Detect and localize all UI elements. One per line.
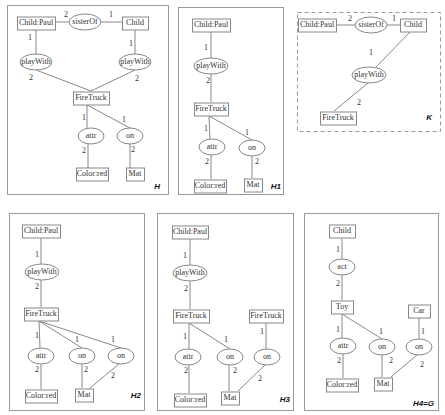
edge-arity-label: 2 (233, 366, 237, 375)
edge-arity-label: 2 (205, 157, 209, 166)
relation-node: attr (28, 348, 54, 364)
concept-label: Child (333, 226, 351, 235)
relation-label: on (248, 143, 256, 152)
edge-arity-label: 1 (122, 115, 126, 124)
concept-node: Child (330, 225, 356, 238)
concept-label: FireTruck (250, 311, 282, 320)
panel-title: H1 (271, 182, 282, 191)
concept-label: FireTruck (195, 104, 227, 113)
concept-label: Mat (78, 390, 92, 399)
concept-label: Child:Paul (19, 18, 54, 27)
edge-arity-label: 1 (204, 43, 208, 52)
relation-node: on (217, 349, 243, 365)
edge-arity-label: 1 (109, 10, 113, 19)
edge-arity-label: 2 (389, 356, 393, 365)
concept-label: Toy (336, 302, 348, 311)
concept-node: FireTruck (250, 310, 284, 323)
concept-node: Child:Paul (18, 17, 56, 30)
graph-edge (342, 314, 382, 339)
edge-arity-label: 2 (357, 98, 361, 107)
edge-arity-label: 2 (35, 282, 39, 291)
concept-label: Child (404, 20, 422, 29)
edge-arity-label: 2 (84, 365, 88, 374)
edge-arity-label: 2 (135, 74, 139, 83)
panel-title: K (426, 113, 433, 122)
relation-label: playWith (175, 268, 204, 277)
relation-label: on (78, 351, 86, 360)
concept-node: Mat (127, 168, 145, 181)
relation-node: on (239, 140, 265, 156)
panel-h2: 12111222Child:PaulFireTruckColor:redMatp… (10, 214, 145, 411)
concept-node: FireTruck (74, 92, 110, 105)
edge-arity-label: 1 (35, 331, 39, 340)
concept-label: Color:red (327, 380, 358, 389)
relation-label: attr (36, 351, 47, 360)
concept-node: FireTruck (195, 103, 229, 116)
graph-edge (36, 70, 91, 91)
concept-node: Child:Paul (193, 19, 231, 32)
graph-edge (376, 32, 410, 67)
relation-node: playWith (20, 54, 52, 70)
edge-arity-label: 1 (28, 33, 32, 42)
edge-arity-label: 1 (111, 335, 115, 344)
edge-arity-label: 1 (421, 327, 425, 336)
relation-node: on (406, 339, 432, 355)
relation-node: sisterOf (355, 17, 387, 33)
edge-arity-label: 2 (131, 145, 135, 154)
panel-border (179, 8, 284, 195)
relation-label: on (226, 352, 234, 361)
relation-label: on (126, 131, 134, 140)
panel-h: 2111221122Child:PaulChildFireTruckColor:… (8, 6, 169, 195)
edge-arity-label: 1 (75, 335, 79, 344)
relation-node: attr (330, 338, 356, 354)
panel-title: H2 (131, 391, 142, 400)
relation-node: playWith (173, 265, 207, 281)
relation-node: playWith (25, 264, 59, 280)
relation-label: act (337, 262, 347, 271)
edge-arity-label: 1 (336, 245, 340, 254)
concept-node: Child:Paul (299, 19, 337, 32)
concept-node: Color:red (195, 180, 227, 193)
edge-arity-label: 2 (29, 73, 33, 82)
edge-arity-label: 1 (224, 335, 228, 344)
relation-label: playWith (27, 267, 56, 276)
relation-label: attr (207, 142, 218, 151)
edge-arity-label: 1 (369, 48, 373, 57)
concept-label: Child:Paul (173, 227, 208, 236)
graph-edge (391, 355, 417, 377)
concept-node: Color:red (77, 168, 109, 181)
concept-label: Color:red (77, 169, 108, 178)
concept-node: Color:red (175, 394, 207, 407)
panel-title: H3 (280, 395, 291, 404)
graph-edge (91, 70, 135, 91)
edge-arity-label: 2 (348, 14, 352, 23)
concept-label: Child:Paul (194, 20, 229, 29)
graph-edge (39, 321, 40, 348)
concept-label: FireTruck (175, 311, 207, 320)
edge-arity-label: 1 (336, 325, 340, 334)
panel-k: 2112Child:PaulChildFireTrucksisterOfplay… (298, 13, 441, 132)
concept-node: Mat (245, 179, 263, 192)
relation-node: attr (78, 128, 104, 144)
edge-arity-label: 2 (337, 356, 341, 365)
panel-h4: 12111222ChildToyCarColor:redMatactattron… (305, 214, 439, 411)
concept-node: Mat (222, 392, 240, 405)
edge-arity-label: 2 (64, 10, 68, 19)
concept-node: Child:Paul (23, 225, 61, 238)
relation-node: on (117, 128, 143, 144)
concept-node: Color:red (327, 379, 359, 392)
concept-node: Child:Paul (173, 226, 209, 239)
edge-arity-label: 1 (260, 327, 264, 336)
panel-h3: 12111222Child:PaulFireTruckFireTruckColo… (158, 214, 294, 411)
relation-label: sisterOf (358, 20, 384, 29)
edge-arity-label: 2 (420, 360, 424, 369)
concept-label: Mat (224, 393, 238, 402)
concept-node: FireTruck (174, 310, 210, 323)
relation-node: on (69, 348, 95, 364)
relation-label: attr (338, 341, 349, 350)
relation-label: on (378, 342, 386, 351)
panel-h1: 121122Child:PaulFireTruckColor:redMatpla… (179, 8, 284, 195)
concept-label: Child:Paul (24, 226, 59, 235)
concept-label: FireTruck (75, 93, 107, 102)
edge-arity-label: 1 (392, 14, 396, 23)
